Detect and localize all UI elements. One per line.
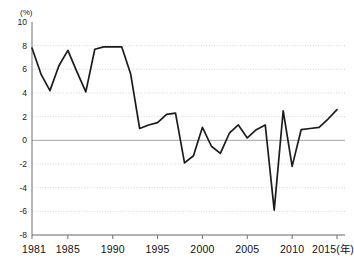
ytick-label-10: 10 — [18, 17, 28, 27]
ytick-label--4: -4 — [19, 183, 27, 193]
series-line-growth-rate — [32, 47, 337, 210]
xtick-label-2000: 2000 — [190, 243, 214, 255]
line-chart: (%)1086420-2-4-6-81981198519901995200020… — [0, 0, 354, 264]
y-axis-unit-label: (%) — [20, 8, 33, 17]
ytick-label-0: 0 — [22, 135, 27, 145]
ytick-label-4: 4 — [22, 88, 27, 98]
ytick-label-8: 8 — [22, 41, 27, 51]
chart-canvas: (%)1086420-2-4-6-81981198519901995200020… — [0, 0, 354, 264]
xtick-label-1995: 1995 — [146, 243, 170, 255]
ytick-label-6: 6 — [22, 64, 27, 74]
xtick-label-1990: 1990 — [101, 243, 125, 255]
xtick-label-2015: 2015(年) — [312, 243, 354, 255]
ytick-label--6: -6 — [19, 206, 27, 216]
xtick-label-2005: 2005 — [235, 243, 259, 255]
xtick-label-1985: 1985 — [56, 243, 80, 255]
ytick-label--8: -8 — [19, 230, 27, 240]
ytick-label-2: 2 — [22, 112, 27, 122]
xtick-label-1981: 1981 — [22, 243, 46, 255]
ytick-label--2: -2 — [19, 159, 27, 169]
xtick-label-2010: 2010 — [280, 243, 304, 255]
